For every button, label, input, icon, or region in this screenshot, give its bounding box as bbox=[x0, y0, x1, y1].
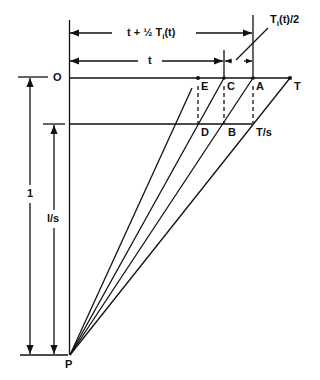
point-E-dot bbox=[196, 76, 200, 80]
label-half-sub: i bbox=[277, 19, 279, 28]
point-T-dot bbox=[288, 76, 292, 80]
label-top-main: t + ½ T bbox=[127, 26, 162, 38]
label-T: T bbox=[294, 81, 301, 92]
label-t: t bbox=[148, 55, 152, 66]
ray-P-E bbox=[70, 88, 192, 355]
point-A-dot bbox=[251, 76, 255, 80]
label-one: 1 bbox=[27, 188, 33, 199]
label-O: O bbox=[53, 72, 62, 83]
point-C-dot bbox=[222, 76, 226, 80]
label-l-over-s: l/s bbox=[47, 213, 59, 224]
diagram-canvas: O E C A T D B T/s P t + ½ Ti(t) t Ti(t)/… bbox=[0, 0, 320, 380]
label-A: A bbox=[256, 81, 264, 92]
label-half-main: T bbox=[270, 13, 277, 25]
label-T-over-s: T/s bbox=[256, 127, 272, 138]
label-top-tail: (t) bbox=[164, 26, 175, 38]
ray-P-T bbox=[70, 78, 290, 355]
label-half-tail: (t)/2 bbox=[279, 13, 299, 25]
diagram-lines bbox=[0, 0, 320, 380]
label-t-plus-half-ti: t + ½ Ti(t) bbox=[127, 27, 175, 38]
label-P: P bbox=[65, 359, 72, 370]
label-half-ti: Ti(t)/2 bbox=[270, 14, 299, 25]
label-B: B bbox=[228, 127, 236, 138]
ray-P-C bbox=[70, 78, 224, 355]
label-D: D bbox=[201, 127, 209, 138]
label-C: C bbox=[227, 81, 235, 92]
label-E: E bbox=[201, 81, 208, 92]
ray-P-A bbox=[70, 78, 253, 355]
